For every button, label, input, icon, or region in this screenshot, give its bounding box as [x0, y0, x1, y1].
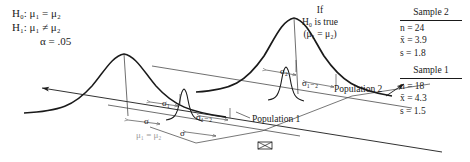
sample-2-n: n = 24: [400, 22, 462, 35]
alpha-level: α = .05: [12, 34, 71, 48]
reference-ticks: [180, 60, 336, 118]
sample-2-title: Sample 2: [400, 6, 462, 21]
sample-1-n: n = 18: [400, 80, 462, 93]
sample-1-title: Sample 1: [400, 64, 462, 79]
null-true-line1: If: [268, 4, 372, 16]
sample-1-sd: s = 1.5: [400, 105, 462, 118]
sigma-1-label: σ₁: [162, 98, 170, 108]
null-hypothesis: H₀: μ₁ = μ₂: [12, 6, 71, 20]
hypothesis-block: H₀: μ₁ = μ₂ H₁: μ₁ ≠ μ₂ α = .05: [12, 6, 71, 48]
null-true-line3: (μ₁ = μ₂): [268, 28, 372, 40]
diagram-canvas: H₀: μ₁ = μ₂ H₁: μ₁ ≠ μ₂ α = .05 If H₀ is…: [0, 0, 470, 162]
mu-equality-label: μ₁ = μ₂: [136, 130, 162, 140]
sample-1-stats: Sample 1 n = 18 x̄ = 4.3 s = 1.5: [400, 64, 462, 117]
sigma-2-label: σ₂: [280, 66, 288, 76]
sample-2-sd: s = 1.8: [400, 47, 462, 60]
axis-break-symbol: [258, 142, 272, 149]
sigma-left-upper-label: σ: [144, 116, 149, 126]
sigma-difference-upper-label: σ₁₋₂: [302, 78, 318, 88]
null-true-note: If H₀ is true (μ₁ = μ₂): [268, 4, 372, 40]
alternative-hypothesis: H₁: μ₁ ≠ μ₂: [12, 20, 71, 34]
sigma-left-lower-label: σ: [180, 128, 185, 138]
population-2-label: Population 2: [334, 84, 382, 94]
sample-1-mean: x̄ = 4.3: [400, 92, 462, 105]
sigma-difference-lower-label: σ₁₋₂: [196, 112, 212, 122]
sample-2-stats: Sample 2 n = 24 x̄ = 3.9 s = 1.8: [400, 6, 462, 59]
axis-front-lower: [42, 88, 442, 152]
population1-leader: [236, 112, 250, 118]
null-true-line2: H₀ is true: [268, 16, 372, 28]
population-1-label: Population 1: [252, 114, 300, 124]
sample-2-mean: x̄ = 3.9: [400, 34, 462, 47]
